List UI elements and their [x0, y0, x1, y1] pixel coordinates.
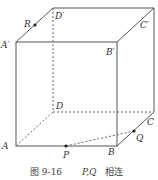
- label-a-prime: A′: [0, 40, 10, 50]
- hidden-edges: [16, 8, 154, 146]
- caption-math: P,Q: [81, 167, 97, 177]
- caption-number: 图 9-16: [30, 167, 62, 177]
- label-b-prime: B′: [105, 47, 115, 57]
- label-b: B: [107, 147, 115, 157]
- cube-diagram: A B C D A′ B′ C′ D′ R P Q 图 9-16 P,Q 相连: [0, 0, 158, 180]
- label-c: C: [147, 117, 154, 127]
- label-p: P: [62, 150, 70, 160]
- label-q: Q: [136, 133, 144, 143]
- label-d: D: [55, 101, 63, 111]
- edge-a-d: [16, 112, 53, 146]
- point-r: [33, 23, 36, 26]
- visible-edges: [16, 8, 154, 146]
- point-p: [64, 144, 67, 147]
- front-face: [16, 42, 117, 146]
- label-c-prime: C′: [140, 20, 149, 30]
- label-r: R: [23, 19, 31, 29]
- segment-p-q: [66, 131, 134, 146]
- label-a: A: [1, 141, 9, 151]
- caption-text: 相连: [105, 166, 123, 177]
- label-d-prime: D′: [54, 11, 64, 21]
